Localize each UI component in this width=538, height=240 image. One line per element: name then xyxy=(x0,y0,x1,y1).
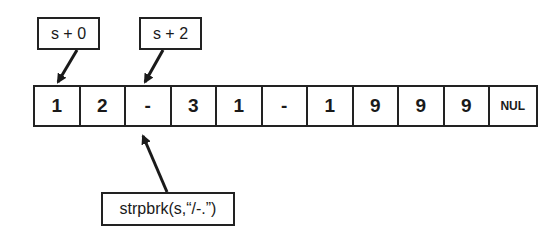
array-cell: 2 xyxy=(81,87,127,125)
array-cell-nul: NUL xyxy=(490,87,536,125)
array-cell: 1 xyxy=(308,87,354,125)
arrow-strpbrk xyxy=(143,136,167,192)
array-cell: - xyxy=(263,87,309,125)
array-cell: 1 xyxy=(217,87,263,125)
array-cell: - xyxy=(126,87,172,125)
array-cell: 3 xyxy=(172,87,218,125)
pointer-label-s0: s + 0 xyxy=(37,17,100,50)
pointer-label-s2: s + 2 xyxy=(139,17,202,50)
array-cell: 9 xyxy=(445,87,491,125)
arrow-s0 xyxy=(58,50,77,82)
array-cell: 1 xyxy=(35,87,81,125)
strpbrk-call-label: strpbrk(s,“/-.”) xyxy=(101,192,235,226)
array-cell: 9 xyxy=(354,87,400,125)
array-cell: 9 xyxy=(399,87,445,125)
arrow-s2 xyxy=(145,50,163,82)
char-array: 1 2 - 3 1 - 1 9 9 9 NUL xyxy=(33,85,538,127)
